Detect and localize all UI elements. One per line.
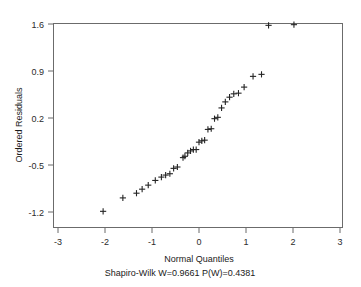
data-point-marker: [222, 99, 228, 105]
data-point-marker: [152, 177, 158, 183]
x-axis-ticks: [58, 228, 340, 233]
x-tick-label: 2: [290, 237, 295, 247]
x-tick-label: -1: [148, 237, 156, 247]
data-point-marker: [235, 90, 241, 96]
x-axis-tick-labels: -3 -2 -1 0 1 2 3: [54, 237, 343, 247]
data-point-marker: [241, 84, 247, 90]
data-point-marker: [205, 126, 211, 132]
data-point-marker: [199, 138, 205, 144]
data-point-marker: [193, 146, 199, 152]
x-tick-label: 0: [196, 237, 201, 247]
data-point-marker: [171, 165, 177, 171]
x-axis-title: Normal Quantiles: [164, 254, 234, 264]
data-point-marker: [100, 208, 106, 214]
y-tick-label: -1.2: [28, 208, 44, 218]
y-axis-tick-labels: 1.6 0.9 0.2 -0.5 -1.2: [28, 20, 44, 218]
data-point-group: [100, 22, 297, 215]
data-point-marker: [231, 91, 237, 97]
qq-plot-figure: 1.6 0.9 0.2 -0.5 -1.2 -3 -2 -1 0 1 2 3: [0, 0, 361, 287]
y-axis-title: Ordered Residuals: [14, 87, 24, 163]
data-point-marker: [258, 71, 264, 77]
data-point-marker: [145, 182, 151, 188]
data-point-marker: [139, 186, 145, 192]
y-tick-label: 0.2: [31, 114, 44, 124]
y-axis-ticks: [48, 24, 53, 212]
data-point-marker: [196, 139, 202, 145]
data-point-marker: [226, 94, 232, 100]
x-tick-label: 1: [243, 237, 248, 247]
y-tick-label: 0.9: [31, 67, 44, 77]
shapiro-wilk-statistic: Shapiro-Wilk W=0.9661 P(W)=0.4381: [105, 268, 256, 278]
x-tick-label: -3: [54, 237, 62, 247]
data-point-marker: [218, 105, 224, 111]
y-tick-label: 1.6: [31, 20, 44, 30]
data-point-marker: [133, 190, 139, 196]
plot-frame: [54, 24, 343, 228]
x-tick-label: 3: [337, 237, 342, 247]
data-point-marker: [250, 73, 256, 79]
data-point-marker: [174, 164, 180, 170]
data-point-marker: [167, 171, 173, 177]
x-tick-label: -2: [101, 237, 109, 247]
data-point-marker: [120, 195, 126, 201]
y-tick-label: -0.5: [28, 161, 44, 171]
data-point-marker: [211, 116, 217, 122]
data-point-marker: [202, 137, 208, 143]
data-point-marker: [215, 114, 221, 120]
data-point-marker: [208, 126, 214, 132]
qq-plot-svg: 1.6 0.9 0.2 -0.5 -1.2 -3 -2 -1 0 1 2 3: [0, 0, 361, 287]
data-point-marker: [291, 22, 297, 28]
